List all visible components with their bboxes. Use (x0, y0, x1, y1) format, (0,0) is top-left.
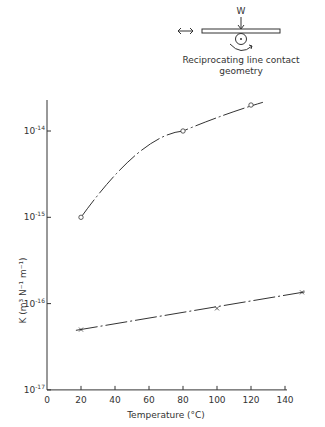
chart-svg: WReciprocating line contactgeometry02040… (0, 0, 325, 427)
figure: WReciprocating line contactgeometry02040… (0, 0, 325, 427)
series-circles-line (81, 102, 263, 217)
data-point-circle (249, 103, 253, 107)
roller-center (240, 38, 242, 40)
x-axis-label: Temperature (°C) (126, 410, 205, 420)
caption-line1: Reciprocating line contact (182, 55, 300, 65)
data-point-cross (215, 306, 219, 310)
x-tick-label: 0 (44, 395, 50, 405)
data-point-circle (79, 215, 83, 219)
data-point-circle (181, 129, 185, 133)
y-tick-label: 10-14 (24, 124, 45, 136)
y-axis-label: K (m³ N⁻¹ m⁻¹) (18, 257, 28, 323)
caption-line2: geometry (219, 66, 263, 76)
reciprocating-arrow-icon (178, 28, 193, 34)
x-tick-label: 100 (208, 395, 225, 405)
x-tick-label: 20 (75, 395, 87, 405)
x-tick-label: 120 (242, 395, 259, 405)
x-tick-label: 60 (143, 395, 155, 405)
x-tick-label: 80 (177, 395, 189, 405)
x-tick-label: 140 (276, 395, 293, 405)
x-tick-label: 40 (109, 395, 121, 405)
load-label: W (237, 6, 246, 16)
series-crosses-line (76, 292, 307, 331)
y-tick-label: 10-15 (24, 210, 45, 222)
y-tick-label: 10-17 (24, 383, 45, 395)
